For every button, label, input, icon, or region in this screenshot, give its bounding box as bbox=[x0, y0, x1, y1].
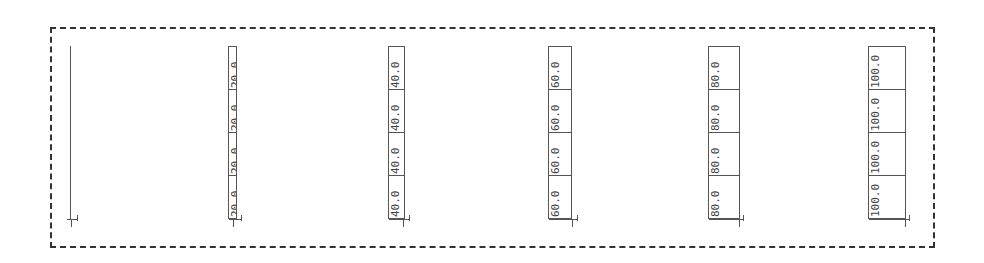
segment-label: 80.0 bbox=[710, 148, 721, 175]
axis-tick-40 bbox=[409, 215, 410, 221]
segment-label: 60.0 bbox=[550, 191, 561, 218]
axis-tick-100 bbox=[909, 215, 910, 221]
axis-base-40 bbox=[389, 219, 409, 220]
axis-tick-20 bbox=[241, 215, 242, 221]
bar-80: 80.0 80.0 80.0 80.0 bbox=[708, 46, 740, 219]
segment-label: 40.0 bbox=[390, 148, 401, 175]
axis-base-100 bbox=[869, 219, 909, 220]
axis-base-0 bbox=[67, 219, 77, 220]
segment-label: 80.0 bbox=[710, 191, 721, 218]
segment: 60.0 bbox=[548, 89, 572, 133]
axis-stem-80 bbox=[739, 219, 740, 227]
segment: 60.0 bbox=[548, 132, 572, 176]
segment-label: 100.0 bbox=[870, 98, 881, 131]
chart-frame bbox=[50, 27, 935, 248]
axis-tick-60 bbox=[577, 215, 578, 221]
segment: 80.0 bbox=[708, 89, 740, 133]
segment-label: 60.0 bbox=[550, 62, 561, 89]
bar-60: 60.0 60.0 60.0 60.0 bbox=[548, 46, 572, 219]
segment: 40.0 bbox=[388, 89, 405, 133]
segment: 40.0 bbox=[388, 175, 405, 219]
segment-label: 20.0 bbox=[230, 105, 237, 132]
segment: 60.0 bbox=[548, 175, 572, 219]
segment-label: 100.0 bbox=[870, 141, 881, 174]
axis-stem-20 bbox=[233, 219, 234, 227]
segment-label: 100.0 bbox=[870, 55, 881, 88]
segment-label: 20.0 bbox=[230, 62, 237, 89]
segment: 60.0 bbox=[548, 46, 572, 90]
segment: 20.0 bbox=[228, 89, 237, 133]
axis-stem-60 bbox=[572, 219, 573, 227]
segment: 100.0 bbox=[868, 132, 906, 176]
segment: 40.0 bbox=[388, 132, 405, 176]
segment-label: 40.0 bbox=[390, 191, 401, 218]
axis-tick-0 bbox=[77, 215, 78, 221]
segment: 80.0 bbox=[708, 46, 740, 90]
bar-40: 40.0 40.0 40.0 40.0 bbox=[388, 46, 405, 219]
axis-base-60 bbox=[549, 219, 577, 220]
axis-base-20 bbox=[229, 219, 241, 220]
segment-label: 40.0 bbox=[390, 62, 401, 89]
segment: 100.0 bbox=[868, 175, 906, 219]
bar-20: 20.0 20.0 20.0 20.0 bbox=[228, 46, 237, 219]
axis-stem-0 bbox=[71, 219, 72, 227]
axis-stem-100 bbox=[905, 219, 906, 227]
segment: 20.0 bbox=[228, 175, 237, 219]
segment: 20.0 bbox=[228, 132, 237, 176]
segment-label: 40.0 bbox=[390, 105, 401, 132]
segment: 40.0 bbox=[388, 46, 405, 90]
segment: 80.0 bbox=[708, 175, 740, 219]
segment-label: 80.0 bbox=[710, 62, 721, 89]
segment-label: 60.0 bbox=[550, 105, 561, 132]
segment-label: 20.0 bbox=[230, 148, 237, 175]
segment: 100.0 bbox=[868, 89, 906, 133]
axis-base-80 bbox=[709, 219, 743, 220]
bar-0-line bbox=[70, 46, 71, 219]
axis-stem-40 bbox=[403, 219, 404, 227]
segment: 80.0 bbox=[708, 132, 740, 176]
segment-label: 100.0 bbox=[870, 184, 881, 217]
segment-label: 80.0 bbox=[710, 105, 721, 132]
segment-label: 20.0 bbox=[230, 191, 237, 218]
segment: 20.0 bbox=[228, 46, 237, 90]
axis-tick-80 bbox=[743, 215, 744, 221]
segment: 100.0 bbox=[868, 46, 906, 90]
bar-100: 100.0 100.0 100.0 100.0 bbox=[868, 46, 906, 219]
segment-label: 60.0 bbox=[550, 148, 561, 175]
